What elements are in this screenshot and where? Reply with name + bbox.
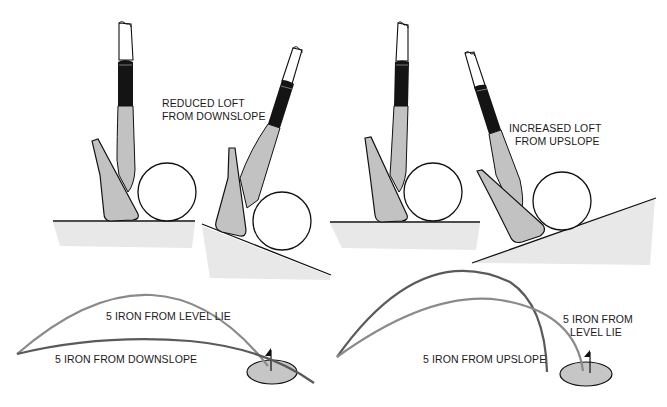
label-text: 5 IRON FROM UPSLOPE: [423, 353, 546, 366]
club-grip: [474, 85, 501, 134]
club-shaft: [465, 52, 485, 88]
trajectory-diagram-downslope: [17, 295, 314, 384]
club-shaft: [119, 23, 133, 60]
label-line: REDUCED LOFT: [162, 97, 266, 110]
label-5-iron-downslope: 5 IRON FROM DOWNSLOPE: [55, 353, 197, 366]
club-grip: [268, 80, 294, 128]
label-5-iron-level-lie: 5 IRON FROM LEVEL LIE: [106, 310, 231, 323]
golf-ball: [533, 172, 591, 230]
club-grip: [118, 60, 133, 106]
panel-downslope: [202, 47, 331, 280]
club-head: [216, 148, 246, 236]
label-text: 5 IRON FROM LEVEL LIE: [106, 310, 231, 323]
label-line: FROM DOWNSLOPE: [162, 110, 266, 123]
putting-green: [247, 360, 297, 384]
label-increased-loft: INCREASED LOFT FROM UPSLOPE: [509, 122, 601, 148]
putting-green: [560, 362, 612, 386]
golf-slope-illustration: [0, 0, 667, 407]
panel-level-lie-right: [330, 22, 480, 250]
label-line: FROM UPSLOPE: [509, 135, 601, 148]
ground-shade: [330, 223, 480, 250]
club-shaft: [396, 23, 408, 61]
flag-icon: [265, 348, 271, 356]
panel-level-lie-left: [53, 22, 196, 248]
label-5-iron-upslope: 5 IRON FROM UPSLOPE: [423, 353, 546, 366]
club-grip: [394, 61, 409, 107]
club-hosel: [390, 106, 408, 192]
golf-ball: [253, 192, 311, 250]
ground-shade: [53, 222, 195, 248]
panel-upslope: [465, 52, 656, 265]
golf-ball: [138, 163, 196, 221]
label-line: LEVEL LIE: [563, 326, 633, 339]
label-5-iron-level-lie-right: 5 IRON FROM LEVEL LIE: [563, 313, 633, 339]
golf-ball: [404, 163, 462, 221]
flag-icon: [584, 350, 590, 357]
label-line: INCREASED LOFT: [509, 122, 601, 135]
club-shaft: [282, 48, 302, 84]
label-reduced-loft: REDUCED LOFT FROM DOWNSLOPE: [162, 97, 266, 123]
label-line: 5 IRON FROM: [563, 313, 633, 326]
label-text: 5 IRON FROM DOWNSLOPE: [55, 353, 197, 366]
